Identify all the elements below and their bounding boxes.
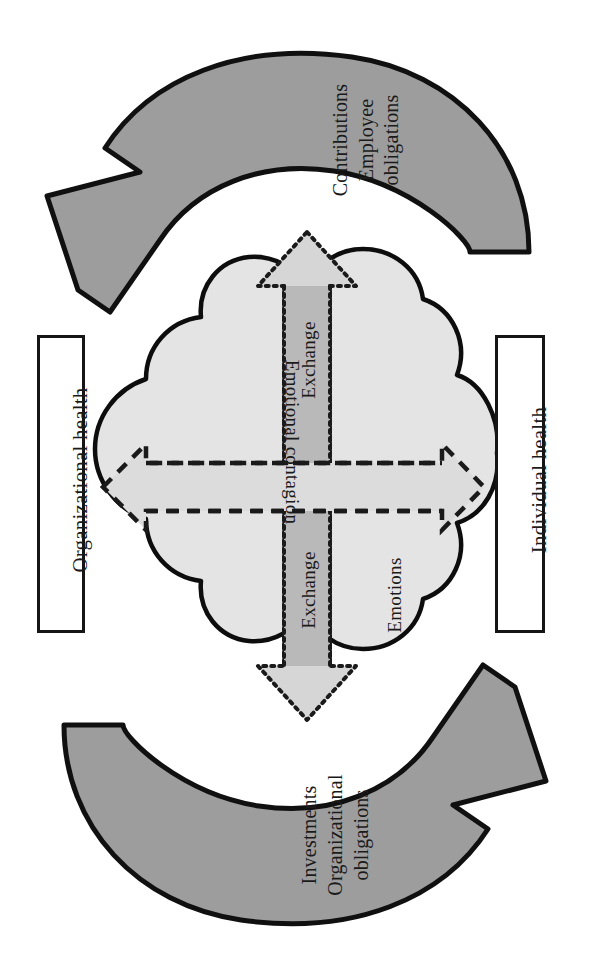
emotional-contagion-label: Emotional contagion (281, 337, 303, 547)
cycle-bottom-line3: obligations (350, 740, 374, 930)
cycle-top-line3: obligations (380, 50, 404, 230)
figure-canvas: Organizational health Individual health … (0, 0, 593, 977)
cycle-arrow-top-label3: obligations (333, 50, 451, 230)
organizational-health-label: Organizational health (68, 335, 93, 625)
cycle-arrow-bottom-label3: obligations (303, 740, 421, 930)
emotions-label: Emotions (384, 535, 406, 655)
individual-health-label: Individual health (527, 335, 552, 625)
